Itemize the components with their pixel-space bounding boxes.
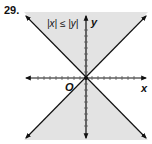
origin-point: [84, 76, 88, 80]
x-axis-label: x: [140, 82, 148, 94]
inequality-graph: |x| ≤ |y| y x O: [0, 0, 152, 144]
y-axis-label: y: [90, 16, 98, 28]
origin-label: O: [65, 81, 74, 93]
inequality-label: |x| ≤ |y|: [47, 18, 78, 29]
